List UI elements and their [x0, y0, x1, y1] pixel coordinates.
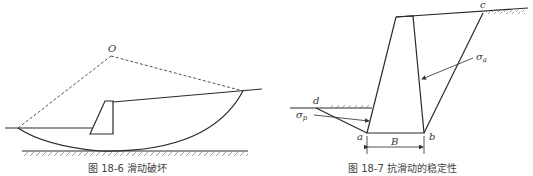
passive-wedge-line	[316, 108, 367, 133]
point-a-label: a	[357, 131, 363, 142]
front-ground-hatch	[328, 105, 370, 108]
caption-18-7: 图 18-7 抗滑动的稳定性	[348, 162, 457, 174]
sigma-a-arrow	[422, 58, 473, 79]
diagram-canvas: O 图 18-6 滑动破坏 σa σp d a b c B 图 18-7	[0, 0, 533, 176]
caption-18-6: 图 18-6 滑动破坏	[88, 162, 167, 174]
figure-18-7: σa σp d a b c B 图 18-7 抗滑动的稳定性	[290, 0, 528, 174]
point-b-label: b	[429, 131, 435, 142]
radius-right	[111, 56, 243, 91]
figure-18-6: O 图 18-6 滑动破坏	[5, 43, 262, 174]
point-d-label: d	[313, 95, 319, 106]
point-c-label: c	[480, 0, 486, 10]
sigma-p-label: σp	[296, 109, 308, 122]
dimension-B-label: B	[390, 136, 398, 147]
retaining-wall	[90, 101, 113, 134]
ground-hatch	[22, 152, 248, 156]
retaining-wall	[367, 16, 424, 133]
active-wedge-line	[424, 13, 483, 133]
top-ground-hatch	[485, 10, 525, 14]
sigma-a-label: σa	[476, 51, 487, 64]
center-label: O	[108, 43, 116, 54]
backfill-surface	[113, 89, 262, 102]
